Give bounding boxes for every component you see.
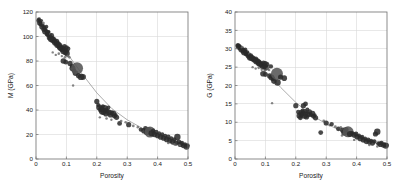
panel-modulus-g: 00.10.20.30.40.50510152025303540Porosity… xyxy=(199,0,398,189)
x-axis-title: Porosity xyxy=(100,172,125,180)
y-tick-label: 0 xyxy=(229,155,233,162)
x-tick-label: 0 xyxy=(34,160,38,167)
plot-canvas: 00.10.20.30.40.50510152025303540Porosity… xyxy=(199,0,398,189)
y-tick-label: 5 xyxy=(229,137,233,144)
x-axis-title: Porosity xyxy=(299,172,324,180)
plot-canvas: 00.10.20.30.40.5020406080100120PorosityM… xyxy=(0,0,199,189)
x-tick-label: 0.4 xyxy=(153,160,162,167)
y-tick-label: 0 xyxy=(30,155,34,162)
y-tick-label: 60 xyxy=(26,82,33,89)
y-tick-label: 15 xyxy=(225,100,232,107)
y-tick-label: 40 xyxy=(225,8,232,15)
x-tick-label: 0.3 xyxy=(322,160,331,167)
y-tick-label: 80 xyxy=(26,57,33,64)
x-tick-label: 0.2 xyxy=(92,160,101,167)
x-tick-label: 0.1 xyxy=(62,160,71,167)
panel-modulus-m: 00.10.20.30.40.5020406080100120PorosityM… xyxy=(0,0,199,189)
y-tick-label: 10 xyxy=(225,118,232,125)
x-tick-label: 0 xyxy=(233,160,237,167)
x-tick-label: 0.2 xyxy=(291,160,300,167)
x-tick-label: 0.5 xyxy=(184,160,193,167)
x-tick-label: 0.4 xyxy=(352,160,361,167)
y-tick-label: 120 xyxy=(23,8,34,15)
y-tick-label: 100 xyxy=(23,33,34,40)
axes-frame xyxy=(235,12,387,159)
y-tick-label: 25 xyxy=(225,63,232,70)
y-axis-title: M (GPa) xyxy=(7,73,15,98)
y-tick-label: 30 xyxy=(225,45,232,52)
x-tick-label: 0.1 xyxy=(261,160,270,167)
x-tick-label: 0.3 xyxy=(123,160,132,167)
y-tick-label: 40 xyxy=(26,106,33,113)
y-tick-label: 20 xyxy=(225,82,232,89)
x-tick-label: 0.5 xyxy=(383,160,392,167)
figure-two-panel-scatter: 00.10.20.30.40.5020406080100120PorosityM… xyxy=(0,0,398,189)
y-tick-label: 20 xyxy=(26,131,33,138)
y-tick-label: 35 xyxy=(225,27,232,34)
y-axis-title: G (GPa) xyxy=(206,73,214,98)
axes-frame xyxy=(36,12,188,159)
